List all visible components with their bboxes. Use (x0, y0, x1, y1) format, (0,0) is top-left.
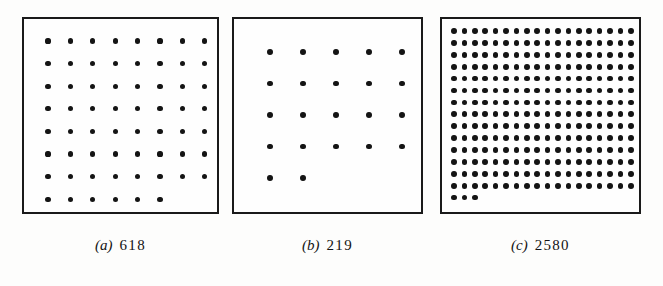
lattice-dot (462, 64, 468, 70)
lattice-dot (157, 174, 162, 179)
lattice-dot (566, 171, 572, 177)
lattice-dot (534, 52, 540, 58)
caption-count-b: 219 (327, 237, 353, 253)
lattice-dot (451, 100, 457, 106)
lattice-dot (157, 84, 162, 89)
lattice-dot (113, 84, 118, 89)
lattice-dot (628, 135, 634, 141)
lattice-dot (503, 64, 509, 70)
lattice-dot (607, 147, 613, 153)
lattice-dot (597, 88, 603, 94)
lattice-dot (618, 88, 624, 94)
lattice-dot (576, 76, 582, 82)
lattice-dot (113, 174, 118, 179)
lattice-dot (555, 52, 561, 58)
lattice-dot (618, 147, 624, 153)
lattice-dot (113, 38, 118, 43)
lattice-dot (366, 112, 372, 118)
lattice-dot (576, 111, 582, 117)
lattice-dot (618, 100, 624, 106)
lattice-dot (524, 159, 530, 165)
lattice-dot (524, 40, 530, 46)
lattice-dot (68, 174, 73, 179)
lattice-dot (462, 40, 468, 46)
lattice-dot (545, 64, 551, 70)
lattice-dot (545, 111, 551, 117)
lattice-dot (157, 38, 162, 43)
lattice-dot (472, 111, 478, 117)
lattice-dot (451, 159, 457, 165)
lattice-dot (524, 135, 530, 141)
lattice-dot (618, 52, 624, 58)
lattice-dot (462, 76, 468, 82)
lattice-dot (451, 195, 457, 201)
lattice-dot (503, 100, 509, 106)
lattice-dot (597, 111, 603, 117)
lattice-dot (45, 106, 50, 111)
lattice-dot (597, 135, 603, 141)
lattice-dot (524, 100, 530, 106)
lattice-dot (586, 111, 592, 117)
lattice-dot (300, 144, 306, 150)
lattice-dot (462, 171, 468, 177)
lattice-dot (566, 76, 572, 82)
lattice-dot (503, 159, 509, 165)
caption-count-c: 2580 (535, 237, 570, 253)
lattice-dot (482, 64, 488, 70)
lattice-dot (618, 159, 624, 165)
lattice-dot (597, 147, 603, 153)
lattice-dot (628, 100, 634, 106)
lattice-dot (493, 100, 499, 106)
lattice-dot (524, 171, 530, 177)
lattice-dot (555, 100, 561, 106)
lattice-dot (472, 135, 478, 141)
lattice-dot (451, 123, 457, 129)
lattice-dot (462, 88, 468, 94)
lattice-dot (451, 52, 457, 58)
lattice-dot (514, 64, 520, 70)
lattice-dot (472, 123, 478, 129)
lattice-dot (618, 111, 624, 117)
lattice-dot (566, 88, 572, 94)
lattice-dot (493, 64, 499, 70)
lattice-dot (514, 52, 520, 58)
lattice-dot (618, 28, 624, 34)
lattice-dot (451, 28, 457, 34)
lattice-dot (482, 147, 488, 153)
lattice-dot (514, 28, 520, 34)
lattice-dot (300, 112, 306, 118)
lattice-dot (524, 52, 530, 58)
lattice-dot (503, 135, 509, 141)
lattice-dot (586, 76, 592, 82)
lattice-dot (503, 76, 509, 82)
lattice-dot (607, 183, 613, 189)
lattice-dot (566, 52, 572, 58)
lattice-dot (472, 159, 478, 165)
lattice-dot (514, 171, 520, 177)
lattice-dot (472, 28, 478, 34)
lattice-dot (524, 64, 530, 70)
lattice-dot (333, 49, 339, 55)
lattice-dot (113, 129, 118, 134)
caption-panel-c: (c)2580 (440, 238, 641, 253)
lattice-dot (576, 171, 582, 177)
lattice-dot (135, 129, 140, 134)
lattice-dot (607, 159, 613, 165)
lattice-dot (482, 52, 488, 58)
lattice-dot (514, 40, 520, 46)
lattice-dot (135, 61, 140, 66)
lattice-dot (482, 100, 488, 106)
lattice-dot (586, 147, 592, 153)
lattice-dot (607, 123, 613, 129)
lattice-dot (90, 38, 95, 43)
lattice-dot (566, 100, 572, 106)
lattice-dot (566, 111, 572, 117)
lattice-dot (135, 174, 140, 179)
lattice-dot (524, 76, 530, 82)
lattice-dot (503, 88, 509, 94)
lattice-dot (628, 171, 634, 177)
lattice-dot (586, 88, 592, 94)
lattice-dot (628, 111, 634, 117)
caption-label-c: (c) (511, 237, 528, 253)
lattice-dot (493, 159, 499, 165)
